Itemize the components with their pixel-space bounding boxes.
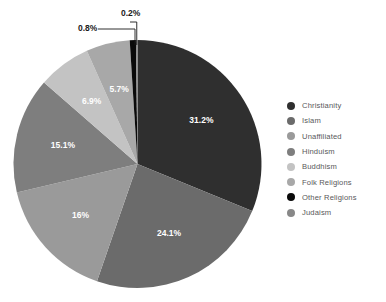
legend-item-label: Hinduism [302, 147, 335, 156]
legend-item-label: Buddhism [302, 162, 337, 171]
legend-swatch-icon [287, 102, 295, 110]
pie-callouts-group: 0.8%0.2% [78, 8, 141, 45]
legend-swatch-icon [287, 163, 295, 171]
pie-slices-group [14, 40, 262, 288]
legend-item[interactable]: Hinduism [287, 144, 383, 159]
pie-chart-figure: 31.2%24.1%16%15.1%6.9%5.7% 0.8%0.2% Chri… [0, 0, 386, 302]
pie-slice-label: 15.1% [51, 140, 76, 150]
legend-swatch-icon [287, 117, 295, 125]
legend-item-label: Unaffiliated [302, 132, 342, 141]
legend-swatch-icon [287, 178, 295, 186]
legend-item[interactable]: Judaism [287, 205, 383, 220]
legend-item[interactable]: Other Religions [287, 190, 383, 205]
legend-swatch-icon [287, 193, 295, 201]
legend-item-label: Islam [302, 116, 321, 125]
legend-item-label: Folk Religions [302, 178, 352, 187]
legend-item[interactable]: Folk Religions [287, 174, 383, 189]
legend-item[interactable]: Islam [287, 113, 383, 128]
pie-callout-label: 0.8% [78, 23, 98, 33]
legend-item[interactable]: Christianity [287, 98, 383, 113]
legend-item-label: Judaism [302, 208, 331, 217]
legend-item-label: Christianity [302, 101, 341, 110]
pie-slice-label: 5.7% [109, 84, 129, 94]
legend-swatch-icon [287, 148, 295, 156]
legend-swatch-icon [287, 132, 295, 140]
legend-item[interactable]: Unaffiliated [287, 129, 383, 144]
legend-item[interactable]: Buddhism [287, 159, 383, 174]
pie-slice-label: 31.2% [189, 115, 214, 125]
pie-slice-label: 6.9% [82, 96, 102, 106]
legend-item-label: Other Religions [302, 193, 357, 202]
pie-callout-label: 0.2% [121, 8, 141, 18]
legend-swatch-icon [287, 209, 295, 217]
pie-slice-label: 24.1% [157, 228, 182, 238]
chart-legend: ChristianityIslamUnaffiliatedHinduismBud… [287, 98, 383, 220]
pie-slice-label: 16% [72, 210, 89, 220]
